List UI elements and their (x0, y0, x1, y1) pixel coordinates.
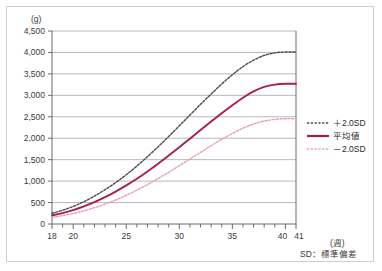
y-tick-label: 4,000 (24, 47, 46, 57)
y-tick-label: 3,500 (24, 69, 46, 79)
figure-container: 05001,0001,5002,0002,5003,0003,5004,0004… (0, 0, 382, 271)
y-tick-label: 0 (40, 219, 45, 229)
y-tick-label: 2,000 (24, 133, 46, 143)
legend-swatch-1 (307, 118, 329, 128)
chart-legend: ＋2.0SD平均値－2.0SD (307, 116, 379, 155)
legend-label: －2.0SD (333, 144, 366, 154)
x-tick-label: 30 (175, 231, 185, 241)
series-line (52, 52, 296, 213)
legend-swatch-3 (307, 144, 329, 154)
x-tick-label: 41 (294, 231, 304, 241)
legend-item[interactable]: 平均値 (307, 129, 379, 142)
x-tick-label: 20 (68, 231, 78, 241)
x-axis-tick-labels: 18202530354041 (47, 231, 304, 241)
sd-footnote: SD：標準偏差 (300, 247, 357, 259)
series-lines (52, 52, 296, 217)
x-tick-label: 40 (278, 231, 288, 241)
y-tick-label: 4,500 (24, 26, 46, 36)
y-axis-unit-label: (g) (31, 14, 41, 24)
x-tick-label: 35 (228, 231, 238, 241)
plot-frame (52, 31, 296, 224)
legend-label: ＋2.0SD (333, 118, 366, 128)
x-axis-ticks (52, 224, 296, 229)
legend-item[interactable]: ＋2.0SD (307, 116, 379, 129)
legend-swatch-2 (307, 131, 329, 141)
y-tick-label: 3,000 (24, 90, 46, 100)
legend-item[interactable]: －2.0SD (307, 142, 379, 155)
y-tick-label: 1,500 (24, 155, 46, 165)
y-axis-tick-labels: 05001,0001,5002,0002,5003,0003,5004,0004… (24, 26, 46, 229)
y-tick-label: 1,000 (24, 176, 46, 186)
y-tick-label: 2,500 (24, 112, 46, 122)
legend-label: 平均値 (333, 131, 360, 141)
series-line (52, 84, 296, 216)
x-tick-label: 25 (122, 231, 132, 241)
y-tick-label: 500 (31, 198, 45, 208)
x-tick-label: 18 (47, 231, 57, 241)
y-axis-ticks (48, 31, 52, 224)
